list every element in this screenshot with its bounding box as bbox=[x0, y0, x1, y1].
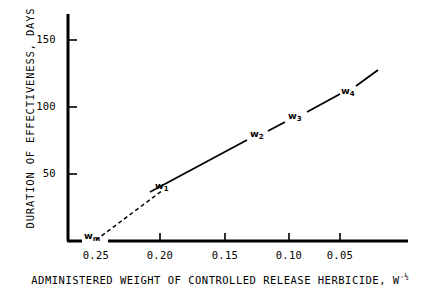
y-tick-label-100: 100 bbox=[22, 100, 56, 112]
x-tick-label-0.20: 0.20 bbox=[138, 249, 182, 261]
w2-subscript: 2 bbox=[259, 133, 264, 141]
trend-line-segment-c bbox=[307, 94, 340, 112]
chart-figure: DURATION OF EFFECTIVENESS, DAYS 150 100 … bbox=[0, 0, 440, 300]
w4-subscript: 4 bbox=[350, 90, 355, 98]
data-point-label-w4: w4 bbox=[341, 85, 355, 96]
x-axis-title-superscript: -½ bbox=[400, 272, 409, 281]
wm-base: w bbox=[84, 230, 93, 241]
data-point-label-wm: wm bbox=[84, 230, 100, 241]
x-axis-title-text: ADMINISTERED WEIGHT OF CONTROLLED RELEAS… bbox=[31, 274, 399, 286]
w1-base: w bbox=[155, 180, 164, 191]
w4-base: w bbox=[341, 85, 350, 96]
data-point-label-w2: w2 bbox=[250, 128, 264, 139]
data-point-label-w1: w1 bbox=[155, 180, 169, 191]
x-tick-label-0.10: 0.10 bbox=[267, 249, 311, 261]
w3-base: w bbox=[288, 110, 297, 121]
wm-subscript: m bbox=[93, 235, 100, 243]
w3-subscript: 3 bbox=[297, 115, 302, 123]
y-tick-label-50: 50 bbox=[22, 167, 56, 179]
x-axis-title: ADMINISTERED WEIGHT OF CONTROLLED RELEAS… bbox=[0, 272, 440, 286]
y-tick-label-150: 150 bbox=[22, 33, 56, 45]
w2-base: w bbox=[250, 128, 259, 139]
x-tick-label-0.15: 0.15 bbox=[203, 249, 247, 261]
trend-line-segment-d bbox=[356, 70, 378, 86]
x-tick-label-0.05: 0.05 bbox=[318, 249, 362, 261]
extrapolated-dashed-segment bbox=[96, 190, 163, 240]
x-tick-label-0.25: 0.25 bbox=[74, 249, 118, 261]
data-point-label-w3: w3 bbox=[288, 110, 302, 121]
trend-line-segment-b bbox=[268, 122, 285, 131]
w1-subscript: 1 bbox=[164, 185, 169, 193]
